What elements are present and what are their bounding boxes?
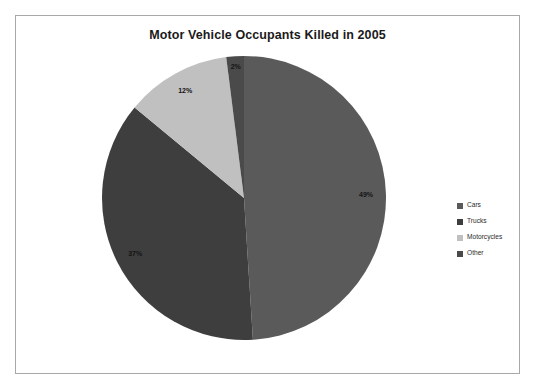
pie-label-other: 2% [231,63,242,70]
chart-frame: Motor Vehicle Occupants Killed in 2005 4… [15,15,520,374]
legend-item-other[interactable]: Other [457,246,529,261]
legend-item-motorcycles[interactable]: Motorcycles [457,230,529,245]
legend-swatch-icon [457,235,463,241]
pie-label-motorcycles: 12% [178,87,193,94]
legend-item-trucks[interactable]: Trucks [457,214,529,229]
pie-slice-cars[interactable] [244,56,386,340]
legend-item-cars[interactable]: Cars [457,198,529,213]
legend-item-label: Trucks [467,218,487,225]
pie-label-trucks: 37% [128,250,143,257]
pie-label-cars: 49% [359,191,374,198]
pie-slice-group [102,56,386,340]
chart-title: Motor Vehicle Occupants Killed in 2005 [16,28,519,42]
legend-item-label: Other [467,250,484,257]
pie-chart-svg: 49%37%12%2% [92,52,392,362]
pie-chart-plot-area: 49%37%12%2% [92,52,392,362]
chart-legend: CarsTrucksMotorcyclesOther [457,198,529,262]
legend-swatch-icon [457,251,463,257]
legend-swatch-icon [457,219,463,225]
legend-swatch-icon [457,203,463,209]
legend-item-label: Cars [467,202,481,209]
legend-item-label: Motorcycles [467,234,502,241]
